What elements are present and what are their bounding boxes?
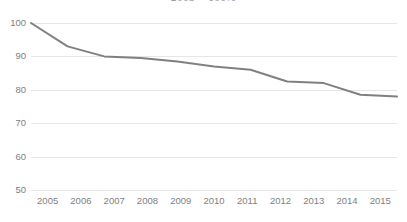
- x-axis-tick-label: 2012: [264, 196, 297, 212]
- x-axis: 2005200620072008200920102011201220132014…: [31, 196, 397, 212]
- y-axis-tick-label: 50: [0, 185, 26, 195]
- x-axis-tick-label: 2006: [64, 196, 97, 212]
- y-axis-tick-label: 90: [0, 52, 26, 62]
- y-axis-tick-label: 70: [0, 118, 26, 128]
- x-axis-tick-label: 2005: [31, 196, 64, 212]
- y-axis-tick-label: 100: [0, 18, 26, 28]
- data-series-line: [31, 23, 397, 190]
- x-axis-tick-label: 2014: [330, 196, 363, 212]
- x-axis-tick-label: 2013: [297, 196, 330, 212]
- x-axis-tick-label: 2011: [231, 196, 264, 212]
- line-chart: 2005 = 100% 1009080706050 20052006200720…: [0, 0, 407, 222]
- x-axis-tick-label: 2010: [197, 196, 230, 212]
- x-axis-tick-label: 2009: [164, 196, 197, 212]
- chart-title: 2005 = 100%: [0, 0, 407, 3]
- series-polyline: [31, 23, 397, 96]
- y-axis-tick-label: 80: [0, 85, 26, 95]
- x-axis-tick-label: 2007: [98, 196, 131, 212]
- plot-area: [31, 23, 397, 190]
- y-axis-tick-label: 60: [0, 152, 26, 162]
- x-axis-tick-label: 2015: [364, 196, 397, 212]
- x-axis-tick-label: 2008: [131, 196, 164, 212]
- gridline: [31, 190, 397, 191]
